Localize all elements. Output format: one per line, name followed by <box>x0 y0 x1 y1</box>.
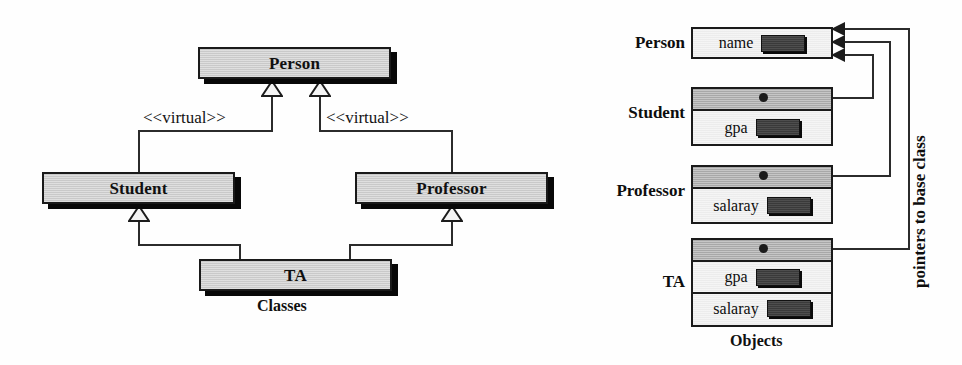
pointer-line-student-vertical <box>872 54 874 99</box>
object-label-person: Person <box>600 33 685 53</box>
class-box-person[interactable]: Person <box>198 47 391 79</box>
field-label-ta-salaray: salaray <box>713 300 758 318</box>
field-slot-gpa <box>756 119 800 136</box>
object-row-professor-salaray: salaray <box>693 187 831 222</box>
edge-ta-student-vertical-upper <box>138 220 140 246</box>
class-box-ta[interactable]: TA <box>199 259 392 291</box>
object-row-person-name: name <box>693 29 831 57</box>
class-box-ta-label: TA <box>284 267 307 284</box>
field-label-salaray: salaray <box>713 197 758 215</box>
field-label-name: name <box>719 34 754 52</box>
edge-professor-person-vertical-upper <box>319 95 321 132</box>
edge-professor-person-horizontal <box>319 130 453 132</box>
field-slot-ta-salaray <box>767 300 811 317</box>
class-box-student[interactable]: Student <box>42 172 235 204</box>
object-label-professor: Professor <box>588 181 685 201</box>
pointer-dot-professor <box>759 171 768 180</box>
pointer-dot-student <box>759 93 768 102</box>
edge-ta-student-horizontal <box>138 244 241 246</box>
pointer-line-professor-vertical <box>889 41 891 177</box>
object-label-student: Student <box>600 103 685 123</box>
pointer-arrowhead-ta <box>831 22 845 36</box>
edge-student-person-vertical-lower <box>138 130 140 174</box>
edge-professor-person-vertical-lower <box>451 130 453 174</box>
pointer-dot-ta <box>759 244 768 253</box>
edge-ta-professor-vertical-upper <box>451 220 453 246</box>
edge-student-person-horizontal <box>138 130 273 132</box>
pointer-arrowhead-professor <box>831 35 845 49</box>
pointer-line-professor-entry <box>843 41 891 43</box>
field-slot-salaray <box>767 197 811 214</box>
object-box-person[interactable]: name <box>691 27 833 59</box>
stereotype-virtual-left: <<virtual>> <box>143 108 226 128</box>
pointer-line-ta-entry <box>843 28 910 30</box>
pointer-line-student-entry <box>843 54 874 56</box>
object-row-student-gpa: gpa <box>693 109 831 144</box>
object-row-ta-gpa: gpa <box>693 260 831 292</box>
edge-ta-professor-horizontal <box>349 244 453 246</box>
class-box-professor-label: Professor <box>416 180 486 197</box>
objects-caption: Objects <box>730 332 782 350</box>
field-slot-ta-gpa <box>756 269 800 286</box>
edge-student-person-vertical-upper <box>271 95 273 132</box>
classes-caption: Classes <box>257 297 307 315</box>
pointers-to-base-class-note: pointers to base class <box>910 135 930 288</box>
class-box-professor[interactable]: Professor <box>355 172 548 204</box>
field-slot-name <box>761 35 805 52</box>
field-label-ta-gpa: gpa <box>724 268 747 286</box>
object-row-ta-salaray: salaray <box>693 292 831 323</box>
class-box-person-label: Person <box>269 55 320 72</box>
pointer-arrowhead-student <box>831 48 845 62</box>
class-box-student-label: Student <box>109 180 167 197</box>
object-label-ta: TA <box>600 272 685 292</box>
diagram-canvas: Person <<virtual>> <<virtual>> Student P… <box>0 0 962 365</box>
field-label-gpa: gpa <box>724 119 747 137</box>
stereotype-virtual-right: <<virtual>> <box>326 108 409 128</box>
